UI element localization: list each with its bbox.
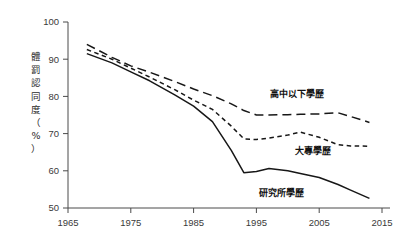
line-chart: 體罰認同度（%） 5060708090100 19651975198519952… xyxy=(0,0,417,249)
x-tick-label: 2015 xyxy=(371,217,392,228)
y-axis-title-char: 認 xyxy=(31,77,41,88)
x-tick-label: 1995 xyxy=(246,217,267,228)
y-tick-label: 100 xyxy=(43,16,59,27)
y-axis-title-char: （ xyxy=(31,117,41,128)
y-tick-label: 60 xyxy=(48,165,59,176)
series-lines xyxy=(87,44,370,198)
x-axis-ticks: 196519751985199520052015 xyxy=(57,208,392,228)
series-label-2: 研究所學歷 xyxy=(259,187,304,198)
y-axis-title-char: 體 xyxy=(31,51,41,62)
x-tick-label: 1975 xyxy=(120,217,141,228)
series-label-1: 大專學歷 xyxy=(295,145,331,156)
y-axis-title-char: 度 xyxy=(31,104,41,115)
series-line-2 xyxy=(87,54,370,199)
series-label-0: 高中以下學歷 xyxy=(270,88,324,99)
y-axis-title: 體罰認同度（%） xyxy=(31,51,41,154)
chart-container: 體罰認同度（%） 5060708090100 19651975198519952… xyxy=(0,0,417,249)
x-tick-label: 1965 xyxy=(57,217,78,228)
y-axis-title-char: 罰 xyxy=(31,64,41,75)
x-tick-label: 1985 xyxy=(183,217,204,228)
y-tick-label: 80 xyxy=(48,91,59,102)
y-tick-label: 70 xyxy=(48,128,59,139)
y-tick-label: 90 xyxy=(48,54,59,65)
y-axis-title-char: % xyxy=(31,130,40,141)
series-line-0 xyxy=(87,44,370,122)
series-annotations: 高中以下學歷大專學歷研究所學歷 xyxy=(259,88,331,198)
y-axis-ticks: 5060708090100 xyxy=(43,16,68,213)
x-tick-label: 2005 xyxy=(309,217,330,228)
y-tick-label: 50 xyxy=(48,202,59,213)
series-line-1 xyxy=(87,50,370,147)
y-axis-title-char: ） xyxy=(31,143,41,154)
y-axis-title-char: 同 xyxy=(31,91,41,102)
